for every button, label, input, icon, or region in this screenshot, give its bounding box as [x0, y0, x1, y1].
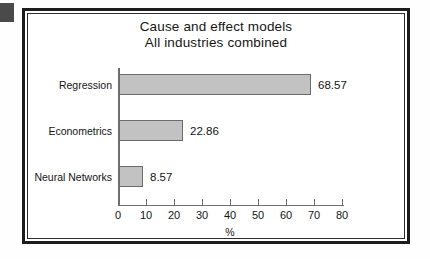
x-axis-line — [118, 205, 344, 206]
chart-title-block: Cause and effect models All industries c… — [27, 19, 405, 51]
bar-chart: Cause and effect models All industries c… — [27, 13, 405, 239]
x-axis-tick-label: 20 — [168, 209, 180, 221]
x-axis-tick — [230, 199, 231, 205]
bar-value-label: 68.57 — [318, 79, 347, 91]
bar[interactable] — [119, 120, 183, 141]
x-axis-tick — [146, 199, 147, 205]
x-axis-tick — [258, 199, 259, 205]
x-axis-tick-label: 50 — [252, 209, 264, 221]
chart-subtitle: All industries combined — [27, 35, 405, 51]
x-axis-tick — [202, 199, 203, 205]
x-axis-tick-label: 80 — [336, 209, 348, 221]
x-axis-tick — [174, 199, 175, 205]
x-axis-tick-label: 60 — [280, 209, 292, 221]
bar-value-label: 8.57 — [150, 171, 172, 183]
x-axis-tick — [314, 199, 315, 205]
chart-title: Cause and effect models — [27, 19, 405, 35]
category-label: Regression — [59, 79, 112, 91]
x-axis-tick-label: 10 — [140, 209, 152, 221]
page-edge-marker — [0, 3, 14, 22]
category-label: Econometrics — [48, 125, 112, 137]
bar[interactable] — [119, 74, 311, 95]
page-background: Cause and effect models All industries c… — [0, 0, 430, 259]
bar-value-label: 22.86 — [190, 125, 219, 137]
x-axis-tick-label: 30 — [196, 209, 208, 221]
x-axis-tick — [286, 199, 287, 205]
bar[interactable] — [119, 166, 143, 187]
category-label: Neural Networks — [34, 171, 112, 183]
x-axis-tick — [118, 199, 119, 205]
x-axis-title: % — [225, 226, 234, 238]
x-axis-tick — [342, 199, 343, 205]
x-axis-tick-label: 40 — [224, 209, 236, 221]
x-axis-tick-label: 70 — [308, 209, 320, 221]
plot-area: Regression 68.57 Econometrics 22.86 Neur… — [118, 68, 350, 205]
x-axis-tick-label: 0 — [115, 209, 121, 221]
